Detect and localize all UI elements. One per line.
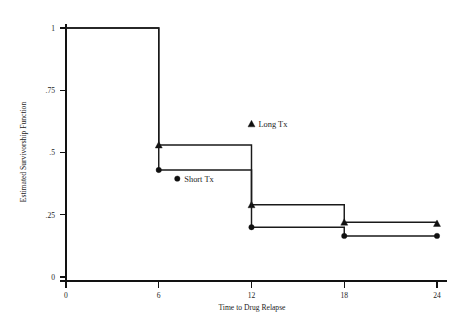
chart-canvas: 0.25.5.751 Estimated Survivorship Functi… xyxy=(0,0,468,331)
legend-layer: Long TxShort Tx xyxy=(175,120,289,184)
legend-label-short-tx: Short Tx xyxy=(184,175,214,184)
x-tick-label-4: 24 xyxy=(433,291,441,300)
y-tick-label-2: .5 xyxy=(49,148,55,157)
x-tick-label-2: 12 xyxy=(248,291,256,300)
y-tick-label-1: .25 xyxy=(46,211,56,220)
y-tick-label-3: .75 xyxy=(46,86,56,95)
y-tick-label-0: 0 xyxy=(51,273,55,282)
x-tick-label-3: 18 xyxy=(340,291,348,300)
y-tick-group: 0.25.5.751 xyxy=(46,24,67,282)
datapoint-short-tx-4 xyxy=(434,233,439,238)
x-tick-group: 06121824 xyxy=(64,281,441,300)
y-axis-title: Estimated Survivorship Function xyxy=(19,102,28,203)
x-axis-group: 06121824 Time to Drug Relapse xyxy=(60,281,447,312)
datapoint-long-tx-4 xyxy=(434,220,441,226)
legend-label-long-tx: Long Tx xyxy=(259,120,289,129)
y-axis-group: 0.25.5.751 Estimated Survivorship Functi… xyxy=(19,24,66,282)
datapoint-short-tx-3 xyxy=(342,233,347,238)
series-layer xyxy=(66,28,441,239)
x-tick-label-1: 6 xyxy=(157,291,161,300)
datapoint-short-tx-2 xyxy=(249,225,254,230)
survival-chart: 0.25.5.751 Estimated Survivorship Functi… xyxy=(0,0,468,331)
x-tick-label-0: 0 xyxy=(64,291,68,300)
curve-short-tx xyxy=(66,28,437,236)
x-axis-title: Time to Drug Relapse xyxy=(218,303,286,312)
datapoint-short-tx-1 xyxy=(156,167,161,172)
legend-marker-long-tx xyxy=(248,120,255,126)
legend-marker-short-tx xyxy=(175,176,180,181)
y-tick-label-4: 1 xyxy=(51,24,55,33)
